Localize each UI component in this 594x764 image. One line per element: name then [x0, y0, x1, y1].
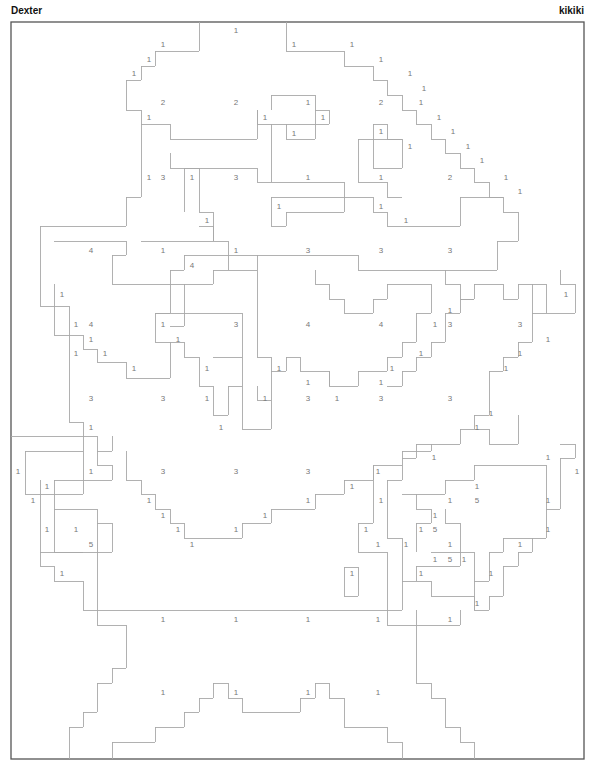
region-outline [170, 153, 503, 226]
region-number: 1 [147, 55, 152, 64]
region-outline [373, 124, 402, 168]
region-number: 1 [376, 615, 381, 624]
region-number: 1 [263, 394, 268, 403]
region-number: 4 [379, 320, 384, 329]
region-number: 3 [161, 394, 166, 403]
region-number: 1 [219, 423, 224, 432]
region-number: 1 [379, 202, 384, 211]
region-outline [546, 444, 575, 509]
region-number: 2 [234, 98, 239, 107]
region-number: 2 [161, 98, 166, 107]
region-number: 5 [89, 540, 94, 549]
region-number: 1 [437, 113, 442, 122]
region-number: 1 [205, 364, 210, 373]
region-number: 1 [263, 511, 268, 520]
region-number: 1 [546, 335, 551, 344]
region-number: 1 [103, 349, 108, 358]
region-number: 1 [350, 40, 355, 49]
region-outline [431, 538, 532, 610]
region-outline [126, 22, 257, 139]
region-number: 1 [161, 320, 166, 329]
region-outline [69, 538, 126, 759]
region-number: 1 [489, 409, 494, 418]
region-number: 1 [190, 173, 195, 182]
region-outline [546, 270, 575, 313]
coloring-canvas: 1111111112212111111111111313112111111411… [0, 0, 594, 764]
region-number: 1 [475, 482, 480, 491]
region-number: 1 [176, 525, 181, 534]
region-number: 1 [277, 202, 282, 211]
region-number: 1 [234, 615, 239, 624]
region-number: 1 [475, 423, 480, 432]
region-number: 1 [433, 555, 438, 564]
region-outline [54, 509, 83, 552]
region-number: 1 [60, 569, 65, 578]
region-number: 5 [448, 555, 453, 564]
region-number: 1 [564, 290, 569, 299]
region-outline [387, 465, 402, 494]
region-number: 1 [504, 364, 509, 373]
region-number: 1 [292, 129, 297, 138]
region-number: 1 [190, 540, 195, 549]
region-outline [184, 168, 257, 255]
region-number: 1 [404, 216, 409, 225]
region-number: 1 [31, 496, 36, 505]
region-number: 1 [60, 290, 65, 299]
region-number: 3 [379, 246, 384, 255]
region-number: 1 [575, 467, 580, 476]
region-number: 1 [205, 216, 210, 225]
region-number: 1 [546, 525, 551, 534]
region-outline [358, 465, 387, 610]
region-number: 1 [466, 142, 471, 151]
region-outline [271, 270, 431, 386]
region-outline [416, 625, 474, 759]
region-number: 1 [350, 569, 355, 578]
region-number: 4 [89, 246, 94, 255]
region-number: 1 [546, 496, 551, 505]
region-number: 3 [89, 394, 94, 403]
region-number: 1 [432, 453, 437, 462]
region-number: 1 [408, 69, 413, 78]
region-number: 1 [419, 569, 424, 578]
region-number: 1 [408, 142, 413, 151]
region-number: 1 [379, 127, 384, 136]
region-outline [155, 313, 242, 357]
region-number: 1 [234, 246, 239, 255]
page-frame [11, 22, 584, 759]
region-number: 3 [448, 394, 453, 403]
region-number: 1 [433, 320, 438, 329]
region-number: 1 [161, 615, 166, 624]
region-number: 1 [422, 84, 427, 93]
region-number: 1 [306, 98, 311, 107]
region-number: 1 [234, 26, 239, 35]
region-number: 1 [234, 525, 239, 534]
region-outline [112, 683, 402, 759]
region-number: 1 [74, 320, 79, 329]
region-number: 1 [489, 569, 494, 578]
region-number: 3 [448, 320, 453, 329]
region-outline [170, 284, 184, 326]
region-number: 3 [306, 246, 311, 255]
region-number: 1 [306, 378, 311, 387]
region-outline [257, 212, 518, 270]
region-number: 1 [419, 98, 424, 107]
region-number: 1 [376, 467, 381, 476]
region-number: 1 [546, 453, 551, 462]
region-outline [242, 386, 271, 429]
region-number: 1 [448, 540, 453, 549]
region-number: 3 [518, 320, 523, 329]
region-outline [54, 241, 228, 342]
region-number: 3 [234, 320, 239, 329]
region-number: 1 [132, 69, 137, 78]
region-number: 1 [518, 349, 523, 358]
region-number: 3 [234, 467, 239, 476]
region-number: 3 [306, 467, 311, 476]
region-number: 1 [45, 525, 50, 534]
region-outline [271, 197, 344, 226]
region-outline [387, 581, 402, 625]
region-outline [416, 465, 546, 581]
region-number: 1 [147, 173, 152, 182]
region-number: 1 [379, 496, 384, 505]
region-number: 1 [161, 246, 166, 255]
region-number: 1 [306, 615, 311, 624]
